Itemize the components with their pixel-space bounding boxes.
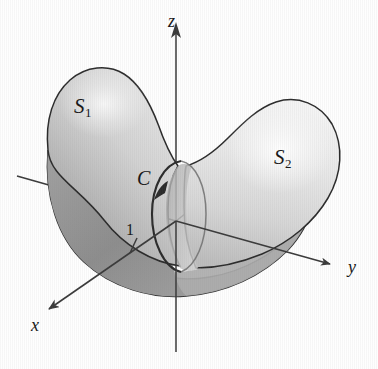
surface-label-s1: S1 [74,96,92,119]
figure-canvas [0,0,378,369]
surface-label-s2-subscript: 2 [285,156,292,171]
curve-label-c: C [137,168,150,188]
surface-label-s2: S2 [274,147,292,170]
math-figure-3d-surface: S1 S2 C 1 z y x [0,0,378,369]
axis-label-y: y [348,258,356,276]
axis-label-x: x [31,316,39,334]
surface-label-s2-base: S [274,145,285,169]
surface-label-s1-base: S [74,94,85,118]
axis-label-z: z [168,12,175,30]
surface-label-s1-subscript: 1 [85,105,92,120]
axis-tick-label-one: 1 [126,222,134,238]
